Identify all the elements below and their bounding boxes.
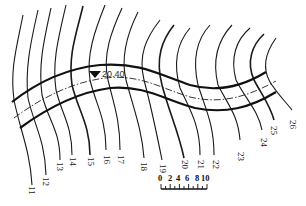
contour-label-20: 20: [180, 160, 190, 170]
benchmark: 20.40: [89, 69, 125, 79]
contour-label-15: 15: [86, 157, 96, 167]
scale-tick-4: 4: [176, 173, 181, 183]
contour-label-16: 16: [102, 155, 112, 165]
road-upper-edge: [12, 65, 266, 102]
contour-24: [234, 28, 262, 130]
contour-label-21: 21: [196, 160, 206, 169]
scale-tick-8: 8: [195, 173, 199, 183]
road: [12, 65, 276, 128]
scale-ticks: [161, 184, 207, 189]
contour-12: [27, 10, 46, 175]
contour-label-14: 14: [68, 157, 78, 167]
contour-18: [124, 12, 144, 158]
scale-tick-0: 0: [158, 173, 162, 183]
contour-label-24: 24: [259, 138, 269, 148]
scale-bar: 0 2 4 6 8 10: [158, 173, 210, 189]
contour-14: [55, 5, 72, 155]
contour-26: [266, 38, 292, 110]
contour-label-26: 26: [288, 120, 298, 130]
contour-label-12: 12: [41, 177, 51, 186]
benchmark-elevation: 20.40: [102, 69, 125, 79]
scale-tick-2: 2: [168, 173, 172, 183]
contour-label-25: 25: [269, 126, 279, 136]
contour-23: [216, 25, 240, 140]
benchmark-triangle-icon: [89, 71, 101, 78]
contour-label-22: 22: [211, 160, 221, 169]
contour-label-17: 17: [116, 155, 126, 165]
contour-17: [106, 8, 122, 150]
contour-label-23: 23: [236, 152, 246, 162]
contour-label-11: 11: [27, 186, 37, 195]
contour-15: [71, 6, 90, 155]
contour-label-13: 13: [55, 162, 65, 172]
scale-tick-10: 10: [201, 173, 210, 183]
contour-lines: [13, 5, 292, 185]
contour-label-18: 18: [139, 162, 149, 172]
contour-21: [176, 28, 200, 155]
contour-map: 20.40 11 12 13 14 15 16 17 18 19 20 21 2…: [0, 0, 306, 206]
contour-13: [41, 8, 60, 160]
contour-label-group: 11 12 13 14 15 16 17 18 19 20 21 22 23 2…: [27, 120, 298, 195]
scale-tick-6: 6: [185, 173, 189, 183]
